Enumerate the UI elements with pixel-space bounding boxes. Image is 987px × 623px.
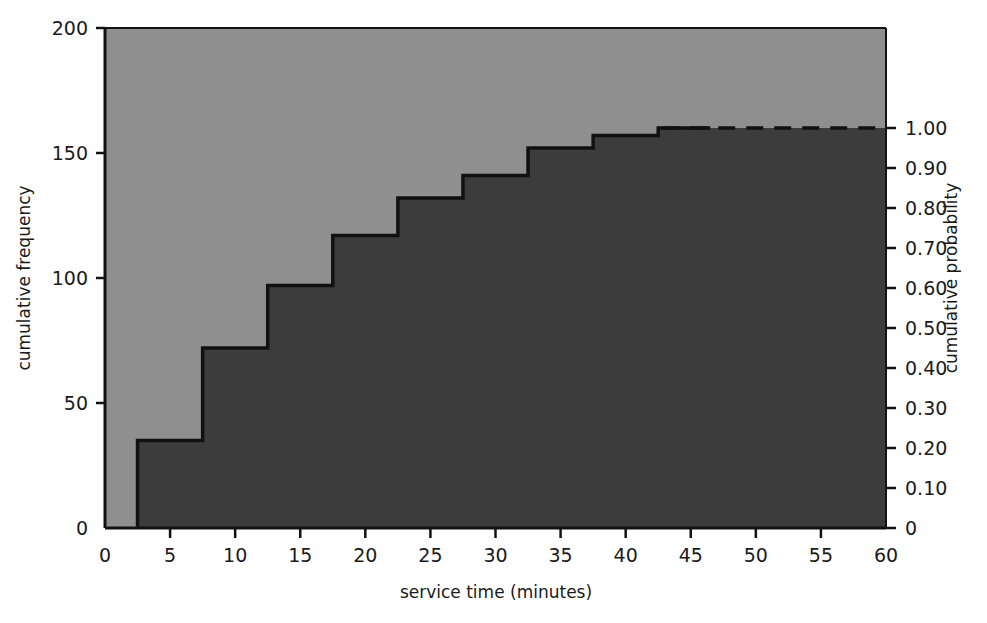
- left-axis-tick-label: 0: [76, 517, 88, 539]
- bottom-axis-tick-label: 35: [548, 544, 572, 566]
- bottom-axis-tick-label: 20: [353, 544, 377, 566]
- bottom-axis-tick-label: 0: [99, 544, 111, 566]
- left-axis-tick-label: 100: [52, 267, 88, 289]
- left-axis-tick-label: 50: [64, 392, 88, 414]
- bottom-axis-tick-label: 5: [164, 544, 176, 566]
- cumulative-frequency-chart: 050100150200 00.100.200.300.400.500.600.…: [0, 0, 987, 623]
- right-axis-tick-label: 1.00: [905, 117, 947, 139]
- bottom-axis-tick-label: 30: [483, 544, 507, 566]
- right-axis-tick-label: 0.20: [905, 437, 947, 459]
- bottom-axis-tick-label: 50: [744, 544, 768, 566]
- right-axis-tick-label: 0.10: [905, 477, 947, 499]
- bottom-axis-tick-label: 15: [288, 544, 312, 566]
- plot-area: [105, 28, 886, 528]
- bottom-axis-tick-label: 40: [614, 544, 638, 566]
- right-axis-tick-label: 0.30: [905, 397, 947, 419]
- left-axis-tick-label: 200: [52, 17, 88, 39]
- left-axis-tick-label: 150: [52, 142, 88, 164]
- left-axis-title: cumulative frequency: [14, 185, 34, 370]
- bottom-axis-title: service time (minutes): [400, 582, 592, 602]
- bottom-axis-tick-label: 25: [418, 544, 442, 566]
- right-axis-title: cumulative probability: [941, 183, 961, 374]
- chart-container: 050100150200 00.100.200.300.400.500.600.…: [0, 0, 987, 623]
- bottom-axis-tick-label: 60: [874, 544, 898, 566]
- bottom-axis-tick-label: 45: [679, 544, 703, 566]
- bottom-axis-tick-label: 55: [809, 544, 833, 566]
- bottom-axis-tick-label: 10: [223, 544, 247, 566]
- right-axis-tick-label: 0.90: [905, 157, 947, 179]
- right-axis-tick-label: 0: [905, 517, 917, 539]
